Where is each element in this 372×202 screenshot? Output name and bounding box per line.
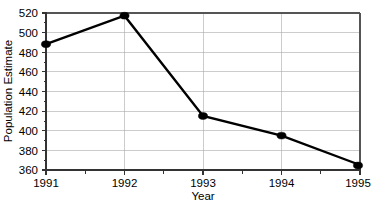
x-tick-label-1993: 1993 — [190, 177, 216, 189]
chart-background — [0, 0, 372, 202]
x-tick-label-1994: 1994 — [269, 177, 295, 189]
y-tick-label-400: 400 — [19, 125, 38, 137]
y-tick-labels: 520 500 480 460 440 420 400 380 360 — [19, 7, 38, 176]
data-point-1991 — [41, 41, 50, 48]
data-point-1994 — [277, 132, 286, 139]
data-point-1993 — [198, 113, 207, 120]
data-point-1995 — [353, 162, 362, 169]
y-tick-label-460: 460 — [19, 66, 38, 78]
x-tick-label-1992: 1992 — [112, 177, 138, 189]
x-tick-label-1991: 1991 — [33, 177, 59, 189]
y-tick-label-520: 520 — [19, 7, 38, 19]
chart-canvas: 520 500 480 460 440 420 400 380 360 1991… — [0, 0, 372, 202]
y-tick-label-480: 480 — [19, 47, 38, 59]
data-point-1992 — [120, 12, 129, 19]
y-axis-title: Population Estimate — [2, 40, 14, 142]
y-tick-label-440: 440 — [19, 86, 38, 98]
y-tick-label-500: 500 — [19, 27, 38, 39]
population-estimate-line-chart: 520 500 480 460 440 420 400 380 360 1991… — [0, 0, 372, 202]
y-tick-label-380: 380 — [19, 145, 38, 157]
y-tick-label-420: 420 — [19, 105, 38, 117]
x-axis-title: Year — [191, 190, 214, 202]
y-tick-label-360: 360 — [19, 164, 38, 176]
x-tick-label-1995: 1995 — [345, 177, 371, 189]
